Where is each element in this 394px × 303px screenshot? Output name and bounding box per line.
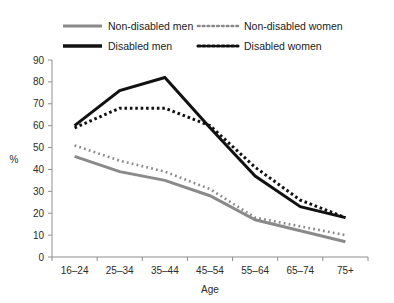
x-tick-label: 25–34 bbox=[106, 265, 134, 276]
legend-label: Disabled men bbox=[108, 40, 172, 52]
y-tick-label: 20 bbox=[33, 208, 45, 219]
y-tick-label: 80 bbox=[33, 76, 45, 87]
axis-layer bbox=[48, 60, 368, 261]
y-tick-label: 60 bbox=[33, 120, 45, 131]
legend-label: Non-disabled men bbox=[108, 20, 193, 32]
chart-legend: Non-disabled men Non-disabled women Disa… bbox=[63, 20, 343, 52]
x-tick-label: 65–74 bbox=[286, 265, 314, 276]
y-tick-label: 0 bbox=[38, 252, 44, 263]
y-tick-label: 40 bbox=[33, 164, 45, 175]
chart-container: Non-disabled men Non-disabled women Disa… bbox=[0, 0, 394, 303]
legend-item-disabled-women: Disabled women bbox=[198, 40, 322, 52]
legend-item-non-disabled-women: Non-disabled women bbox=[198, 20, 343, 32]
label-layer: 010203040506070809016–2425–3435–4445–545… bbox=[10, 55, 355, 296]
y-tick-label: 30 bbox=[33, 186, 45, 197]
x-tick-label: 45–54 bbox=[196, 265, 224, 276]
legend-label: Disabled women bbox=[244, 40, 322, 52]
series-line-non-disabled-men bbox=[75, 156, 346, 241]
series-line-disabled-women bbox=[75, 108, 346, 217]
x-tick-label: 16–24 bbox=[61, 265, 89, 276]
legend-item-disabled-men: Disabled men bbox=[63, 40, 172, 52]
legend-item-non-disabled-men: Non-disabled men bbox=[63, 20, 193, 32]
x-tick-label: 55–64 bbox=[241, 265, 269, 276]
y-tick-label: 50 bbox=[33, 142, 45, 153]
series-line-non-disabled-women bbox=[75, 145, 346, 235]
y-tick-label: 90 bbox=[33, 55, 45, 66]
y-axis-title: % bbox=[10, 154, 19, 165]
x-axis-title: Age bbox=[201, 284, 219, 295]
x-tick-label: 35–44 bbox=[151, 265, 179, 276]
y-tick-label: 70 bbox=[33, 98, 45, 109]
x-tick-label: 75+ bbox=[337, 265, 354, 276]
y-tick-label: 10 bbox=[33, 230, 45, 241]
legend-label: Non-disabled women bbox=[244, 20, 343, 32]
series-layer bbox=[75, 78, 346, 242]
line-chart: Non-disabled men Non-disabled women Disa… bbox=[0, 0, 394, 303]
